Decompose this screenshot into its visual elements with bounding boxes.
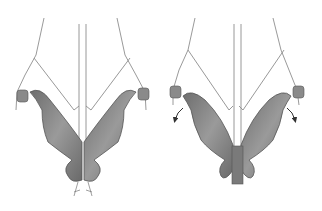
- process-right: [84, 90, 136, 181]
- joint-left: [170, 86, 181, 98]
- process-right: [241, 93, 291, 178]
- arrow-right-icon: [287, 108, 295, 120]
- joint-right: [293, 86, 304, 98]
- panel-before: [0, 0, 161, 211]
- illustration-before: [0, 0, 161, 211]
- process-left: [30, 90, 82, 181]
- joint-right: [138, 88, 149, 100]
- illustration-after: [161, 0, 322, 211]
- central-post: [232, 146, 243, 184]
- joint-left: [17, 90, 28, 102]
- arrow-left-icon: [175, 108, 183, 120]
- panel-after: [161, 0, 322, 211]
